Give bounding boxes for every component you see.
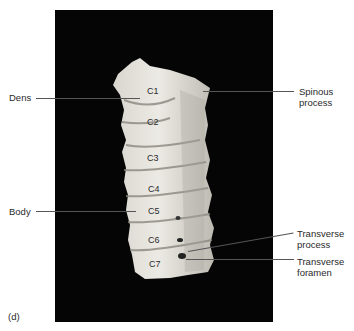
label-transverse-foramen: Transverse foramen [297,256,344,278]
label-body: Body [9,206,31,217]
panel-label: (d) [8,311,20,322]
vertebra-label-c4: C4 [148,184,160,194]
leader-spinous-process [203,91,294,92]
vertebra-label-c7: C7 [149,259,161,269]
leader-dens [36,98,140,99]
vertebra-label-c3: C3 [147,153,159,163]
label-spinous-process: Spinous process [299,86,333,108]
label-transverse-process: Transverse process [297,228,344,250]
vertebra-label-c1: C1 [147,86,159,96]
leader-body [36,211,136,212]
leader-transverse-foramen [186,259,294,260]
cervical-vertebrae-illustration [0,0,354,331]
label-dens: Dens [9,92,31,103]
vertebra-label-c2: C2 [147,117,159,127]
vertebra-label-c6: C6 [148,235,160,245]
vertebra-label-c5: C5 [148,206,160,216]
